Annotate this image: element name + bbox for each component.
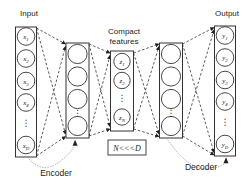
connection-line	[37, 28, 66, 44]
decoder-hidden-layer: ⋮	[160, 43, 183, 138]
connection-line	[183, 30, 215, 136]
input-ellipsis: ⋮	[22, 118, 31, 128]
decoder-arrowhead-icon	[224, 157, 229, 163]
compact-ellipsis: ⋮	[118, 93, 127, 103]
connection-line	[37, 28, 66, 134]
hidden-node	[68, 116, 87, 135]
decoder-label: Decoder	[185, 162, 217, 172]
compact-label-line2: features	[110, 37, 139, 46]
connection-line	[89, 129, 110, 136]
connection-line	[134, 129, 160, 137]
output-label: Output	[215, 9, 240, 18]
hidden-node	[161, 89, 180, 108]
bottleneck-note: N<<<D	[108, 140, 146, 155]
encoder-arrowhead-icon	[73, 140, 78, 146]
hidden-node	[161, 44, 180, 63]
output-ellipsis: ⋮	[221, 117, 230, 127]
encoder-label: Encoder	[40, 168, 72, 178]
connection-line	[134, 47, 160, 130]
connection-line	[183, 44, 215, 153]
connection-line	[183, 136, 215, 155]
autoencoder-figure: x1 x2 x3 x4 xD ⋮ ⋮ z1 z2 zN ⋮ ⋮	[0, 0, 252, 185]
bottleneck-note-text: N<<<D	[112, 144, 141, 153]
compact-label-line1: Compact	[108, 27, 141, 36]
hidden-node	[161, 67, 180, 86]
hidden-ellipsis: ⋮	[73, 108, 82, 118]
connection-line	[89, 44, 110, 127]
input-layer: x1 x2 x3 x4 xD ⋮	[16, 27, 37, 157]
connection-line	[37, 47, 66, 157]
hidden-node	[68, 44, 87, 63]
connection-line	[134, 53, 160, 134]
connection-line	[89, 44, 110, 53]
hidden-node	[68, 89, 87, 108]
autoencoder-diagram: x1 x2 x3 x4 xD ⋮ ⋮ z1 z2 zN ⋮ ⋮	[0, 0, 252, 185]
input-label: Input	[20, 9, 39, 18]
connection-line	[37, 137, 66, 157]
connection-line	[183, 28, 215, 45]
hidden-node	[161, 116, 180, 135]
connection-line	[89, 56, 110, 137]
hidden-ellipsis: ⋮	[167, 108, 176, 118]
compact-features-layer: z1 z2 zN ⋮	[111, 51, 134, 131]
encoder-hidden-layer: ⋮	[66, 43, 89, 138]
output-layer: y1 y2 y3 y4 yD ⋮	[215, 26, 236, 156]
hidden-node	[68, 67, 87, 86]
